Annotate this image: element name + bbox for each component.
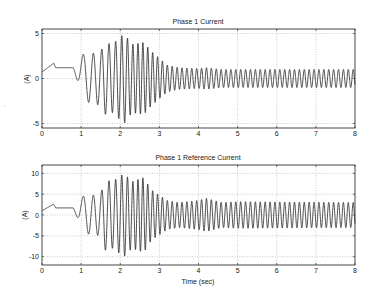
top-plot-title: Phase 1 Current	[173, 18, 224, 25]
svg-text:2: 2	[118, 267, 122, 274]
top-y-axis-label: (A)	[23, 74, 31, 83]
svg-text:-5: -5	[33, 232, 39, 239]
svg-text:8: 8	[353, 267, 357, 274]
top-axes: Phase 1 Current (A) 012345678-505	[23, 18, 357, 137]
svg-text:3: 3	[157, 267, 161, 274]
svg-text:4: 4	[197, 267, 201, 274]
bottom-axes: Phase 1 Reference Current (A) 012345678-…	[21, 154, 357, 286]
x-axis-label: Time (sec)	[182, 278, 215, 286]
svg-text:1: 1	[79, 130, 83, 137]
svg-text:5: 5	[236, 130, 240, 137]
svg-text:0: 0	[35, 212, 39, 219]
svg-text:6: 6	[275, 130, 279, 137]
svg-text:5: 5	[236, 267, 240, 274]
svg-text:2: 2	[118, 130, 122, 137]
svg-text:0: 0	[35, 75, 39, 82]
svg-text:-10: -10	[29, 253, 39, 260]
scan-speck	[4, 105, 5, 106]
svg-text:7: 7	[314, 267, 318, 274]
svg-text:10: 10	[31, 170, 39, 177]
svg-text:5: 5	[35, 30, 39, 37]
svg-text:5: 5	[35, 191, 39, 198]
svg-text:6: 6	[275, 267, 279, 274]
svg-text:7: 7	[314, 130, 318, 137]
bottom-plot-title: Phase 1 Reference Current	[155, 154, 240, 161]
svg-text:8: 8	[353, 130, 357, 137]
svg-text:1: 1	[79, 267, 83, 274]
svg-text:3: 3	[157, 130, 161, 137]
bottom-y-axis-label: (A)	[21, 210, 29, 219]
svg-text:4: 4	[197, 130, 201, 137]
svg-text:0: 0	[40, 267, 44, 274]
svg-text:0: 0	[40, 130, 44, 137]
figure: Phase 1 Current (A) 012345678-505 Phase …	[0, 0, 373, 299]
svg-text:-5: -5	[33, 120, 39, 127]
